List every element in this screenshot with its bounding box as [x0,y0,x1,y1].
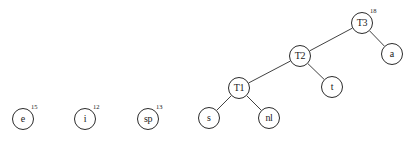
tree-node-label-s: s [207,113,211,123]
tree-node-label-e: e [21,114,25,124]
tree-edge-T3-T2 [310,28,353,51]
tree-node-T3[interactable]: T3 [351,12,373,34]
tree-node-i[interactable]: i [74,108,96,130]
tree-node-label-a: a [390,49,394,59]
tree-node-label-nl: nl [266,113,273,123]
tree-node-e[interactable]: e [12,108,34,130]
tree-edge-T2-t [308,64,324,80]
tree-edge-T3-a [370,31,385,46]
tree-edge-T2-T1 [249,61,291,83]
tree-node-a[interactable]: a [381,43,403,65]
tree-node-label-T1: T1 [234,83,244,93]
tree-node-weight-sp: 13 [156,104,163,111]
tree-diagram-canvas: e15i12sp13T318aT2tT1snl [0,0,410,144]
tree-edge-T1-s [217,96,231,110]
tree-node-s[interactable]: s [198,107,220,129]
tree-node-label-i: i [84,114,87,124]
tree-node-T1[interactable]: T1 [228,77,250,99]
tree-node-label-sp: sp [144,114,152,124]
tree-node-t[interactable]: t [321,76,343,98]
tree-node-sp[interactable]: sp [137,108,159,130]
tree-node-nl[interactable]: nl [258,107,280,129]
tree-node-label-t: t [331,82,334,92]
tree-node-label-T2: T2 [295,51,305,61]
tree-node-weight-i: 12 [93,104,100,111]
tree-node-T2[interactable]: T2 [289,45,311,67]
tree-edge-T1-nl [247,96,261,110]
tree-node-label-T3: T3 [357,18,367,28]
tree-node-weight-T3: 18 [370,8,377,15]
tree-node-weight-e: 15 [31,104,38,111]
